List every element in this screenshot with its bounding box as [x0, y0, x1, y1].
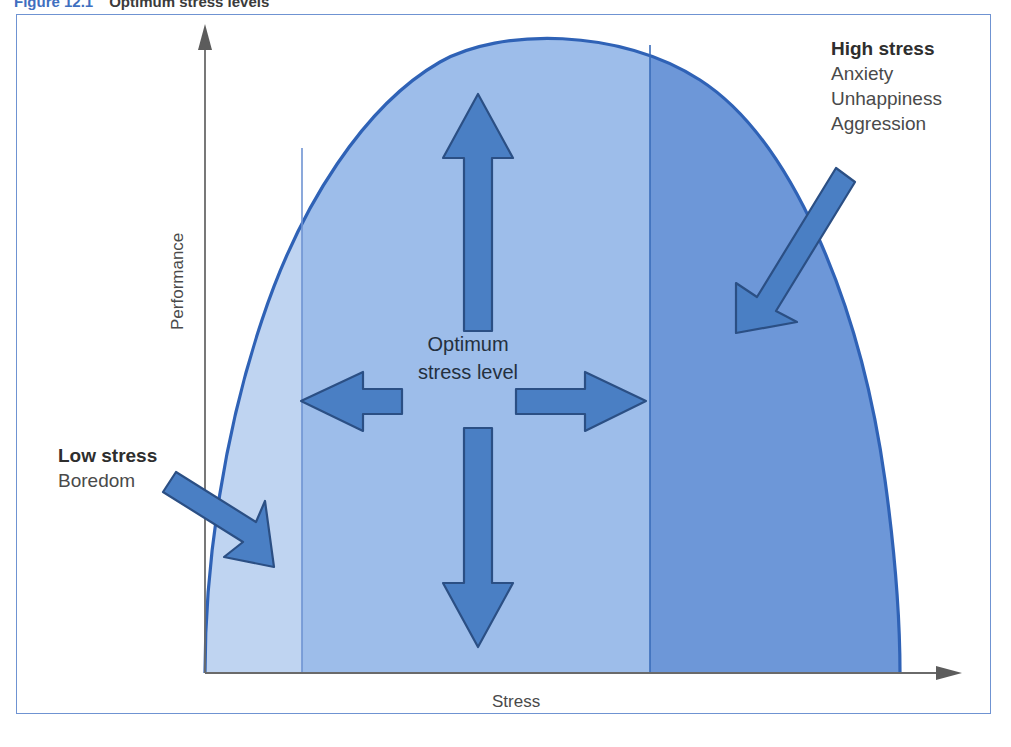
- optimum-line-1: Optimum: [418, 330, 518, 358]
- x-axis-arrowhead: [936, 666, 962, 680]
- low-stress-annotation: Low stress Boredom: [58, 443, 157, 493]
- high-stress-annotation: High stress Anxiety Unhappiness Aggressi…: [831, 36, 942, 136]
- x-axis-label: Stress: [492, 692, 540, 712]
- curve-bands: [200, 20, 915, 675]
- high-stress-item-aggression: Aggression: [831, 111, 942, 136]
- band-low-stress: [200, 20, 302, 675]
- y-axis-arrowhead: [198, 24, 212, 50]
- high-stress-item-anxiety: Anxiety: [831, 61, 942, 86]
- low-stress-item-boredom: Boredom: [58, 468, 157, 493]
- y-axis-label: Performance: [168, 233, 188, 330]
- optimum-stress-annotation: Optimum stress level: [418, 330, 518, 386]
- high-stress-item-unhappiness: Unhappiness: [831, 86, 942, 111]
- low-stress-heading: Low stress: [58, 443, 157, 468]
- high-stress-heading: High stress: [831, 36, 942, 61]
- optimum-line-2: stress level: [418, 358, 518, 386]
